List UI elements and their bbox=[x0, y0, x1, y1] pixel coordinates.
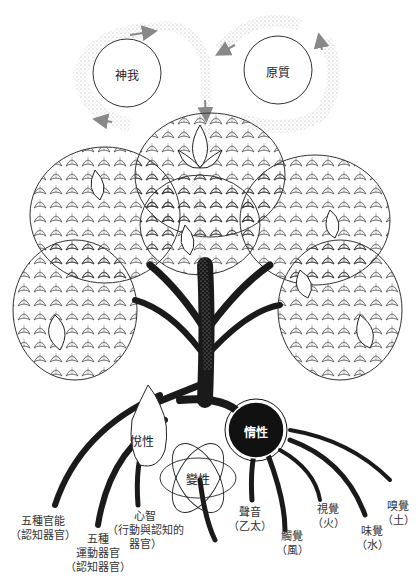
label-touch: 觸覺 （風） bbox=[270, 530, 314, 558]
tamas-label: 惰性 bbox=[236, 423, 276, 440]
label-sound: 聲音 （乙太） bbox=[228, 506, 272, 534]
tree-diagram: 神我 原質 悅性 變性 惰性 五種官能 （認知器官） 五種 運動器官 （認知器官… bbox=[0, 0, 418, 583]
label-manas: 心智 （行動與認知的 器官） bbox=[105, 510, 185, 552]
sattva-label: 悅性 bbox=[122, 432, 162, 449]
label-sight: 視覺 （火） bbox=[306, 503, 350, 531]
purusha-label: 神我 bbox=[107, 66, 147, 83]
label-taste: 味覺 （水） bbox=[350, 525, 394, 553]
label-smell: 嗅覺 （土） bbox=[378, 500, 418, 528]
rajas-label: 變性 bbox=[178, 470, 218, 487]
tree-illustration bbox=[0, 0, 418, 583]
prakriti-label: 原質 bbox=[258, 63, 298, 80]
